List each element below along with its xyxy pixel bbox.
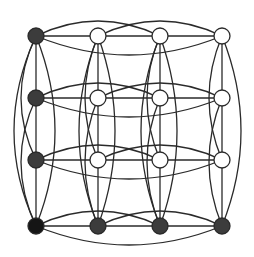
node-r3-c2 xyxy=(152,218,168,234)
row-arc xyxy=(36,226,222,245)
node-r1-c0 xyxy=(28,90,44,106)
row-arc xyxy=(36,98,222,117)
node-r1-c1 xyxy=(90,90,106,106)
col-arc xyxy=(98,36,115,226)
row-arc xyxy=(36,36,222,55)
node-r1-c2 xyxy=(152,90,168,106)
node-r2-c0 xyxy=(28,152,44,168)
node-r2-c1 xyxy=(90,152,106,168)
row-arc xyxy=(36,160,222,179)
node-r0-c0 xyxy=(28,28,44,44)
node-r3-c0 xyxy=(28,218,44,234)
node-r3-c3 xyxy=(214,218,230,234)
node-r2-c3 xyxy=(214,152,230,168)
node-r0-c2 xyxy=(152,28,168,44)
node-r1-c3 xyxy=(214,90,230,106)
node-r2-c2 xyxy=(152,152,168,168)
col-arc xyxy=(160,36,177,226)
node-r3-c1 xyxy=(90,218,106,234)
node-r0-c1 xyxy=(90,28,106,44)
col-arc xyxy=(36,36,55,226)
rook-graph-diagram xyxy=(0,0,254,257)
edges xyxy=(14,21,241,245)
nodes xyxy=(28,28,230,234)
node-r0-c3 xyxy=(214,28,230,44)
col-arc xyxy=(222,36,241,226)
